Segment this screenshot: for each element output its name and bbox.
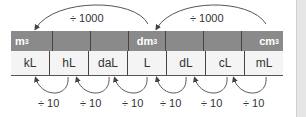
label-div-10: ÷ 10 xyxy=(122,97,143,109)
header-cell-cm3: cm3 xyxy=(241,31,283,51)
label-div-10: ÷ 10 xyxy=(243,97,264,109)
header-cell-empty xyxy=(203,31,241,51)
arrow-bottom-7 xyxy=(234,77,266,93)
label-div-10: ÷ 10 xyxy=(80,97,101,109)
header-cell-empty xyxy=(90,31,128,51)
unit-cl: cL xyxy=(205,51,244,75)
header-cell-empty xyxy=(52,31,90,51)
unit-dal: daL xyxy=(88,51,127,75)
header-cell-empty xyxy=(165,31,203,51)
label-div-10: ÷ 10 xyxy=(38,97,59,109)
arrow-bottom-3 xyxy=(115,77,147,93)
unit-ml: mL xyxy=(244,51,283,75)
unit-l: L xyxy=(127,51,166,75)
arrow-bottom-2 xyxy=(77,77,109,93)
unit-dl: dL xyxy=(166,51,205,75)
arrow-bottom-6 xyxy=(195,77,227,93)
header-cell-dm3: dm3 xyxy=(128,31,166,51)
unit-kl: kL xyxy=(11,51,49,75)
label-div-10: ÷ 10 xyxy=(201,97,222,109)
label-div-1000-right: ÷ 1000 xyxy=(190,12,224,24)
unit-hl: hL xyxy=(49,51,88,75)
arrow-bottom-1 xyxy=(36,77,68,93)
arrow-bottom-4 xyxy=(157,77,186,93)
header-cell-m3: m3 xyxy=(11,31,52,51)
label-div-1000-left: ÷ 1000 xyxy=(70,12,104,24)
label-div-10: ÷ 10 xyxy=(160,97,181,109)
header-row: m3 dm3 cm3 xyxy=(11,31,283,51)
units-row: kL hL daL L dL cL mL xyxy=(11,51,283,76)
unit-conversion-table: m3 dm3 cm3 kL hL daL L dL cL mL xyxy=(11,31,283,76)
